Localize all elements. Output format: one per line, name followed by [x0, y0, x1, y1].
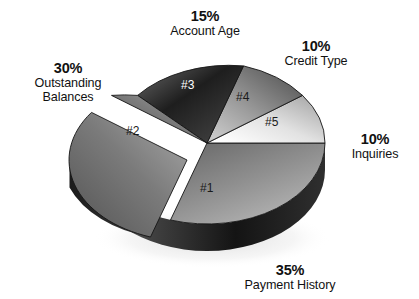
callout-outstanding-line2: Balances [12, 90, 124, 104]
callout-inquiries-label: Inquiries [333, 147, 417, 161]
callout-account-age-line1: Account Age [139, 24, 271, 38]
callout-inquiries: 10% Inquiries [333, 131, 417, 161]
callout-account-age-label: Account Age [139, 24, 271, 38]
slice-tag-3: #3 [181, 78, 195, 92]
pie-chart: #1 #2 #3 #4 #5 15% Account Age 10% Credi… [0, 0, 419, 299]
callout-payment-history: 35% Payment History [210, 262, 370, 292]
callout-outstanding-percent: 30% [12, 60, 124, 76]
slice-tag-4: #4 [236, 90, 250, 104]
callout-outstanding-label: Outstanding Balances [12, 76, 124, 104]
callout-payment-label: Payment History [210, 278, 370, 292]
callout-credit-type-line1: Credit Type [258, 54, 374, 68]
callout-credit-type-label: Credit Type [258, 54, 374, 68]
callout-account-age: 15% Account Age [139, 8, 271, 38]
callout-outstanding-line1: Outstanding [12, 76, 124, 90]
callout-payment-percent: 35% [210, 262, 370, 278]
slice-tag-1: #1 [200, 181, 214, 195]
callout-credit-type: 10% Credit Type [258, 38, 374, 68]
callout-credit-type-percent: 10% [258, 38, 374, 54]
callout-payment-line1: Payment History [210, 278, 370, 292]
callout-outstanding-balances: 30% Outstanding Balances [12, 60, 124, 104]
callout-inquiries-line1: Inquiries [333, 147, 417, 161]
slice-tag-2: #2 [126, 124, 140, 138]
slice-tag-5: #5 [265, 115, 279, 129]
callout-account-age-percent: 15% [139, 8, 271, 24]
callout-inquiries-percent: 10% [333, 131, 417, 147]
